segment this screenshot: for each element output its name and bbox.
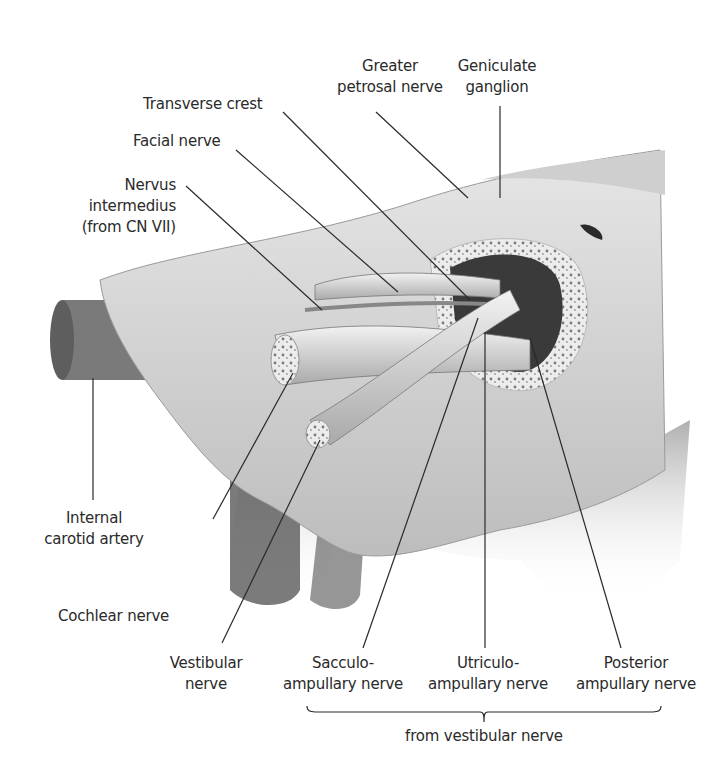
label-geniculate-ganglion: Geniculate ganglion bbox=[458, 56, 537, 98]
label-line: Utriculo- bbox=[428, 653, 548, 674]
anatomy-illustration bbox=[0, 0, 720, 764]
label-facial-nerve: Facial nerve bbox=[133, 131, 221, 152]
label-line: ampullary nerve bbox=[283, 674, 403, 695]
label-line: Sacculo- bbox=[283, 653, 403, 674]
label-line: ganglion bbox=[458, 77, 537, 98]
label-line: Internal bbox=[44, 508, 144, 529]
label-line: ampullary nerve bbox=[576, 674, 696, 695]
label-line: Nervus bbox=[124, 175, 176, 196]
label-line: Vestibular bbox=[170, 653, 243, 674]
label-posterior-ampullary-nerve: Posterior ampullary nerve bbox=[576, 653, 696, 695]
label-line: Geniculate bbox=[458, 56, 537, 77]
label-line: Greater bbox=[337, 56, 443, 77]
label-line: Posterior bbox=[576, 653, 696, 674]
label-line: nerve bbox=[170, 674, 243, 695]
label-greater-petrosal-nerve: Greater petrosal nerve bbox=[337, 56, 443, 98]
label-line: intermedius bbox=[89, 196, 176, 217]
label-line: (from CN VII) bbox=[82, 217, 176, 238]
label-line: ampullary nerve bbox=[428, 674, 548, 695]
label-group-caption: from vestibular nerve bbox=[405, 726, 563, 747]
label-transverse-crest: Transverse crest bbox=[143, 94, 263, 115]
label-line: carotid artery bbox=[44, 529, 144, 550]
label-utriculo-ampullary-nerve: Utriculo- ampullary nerve bbox=[428, 653, 548, 695]
cochlear-nerve-cut bbox=[271, 335, 299, 385]
label-internal-carotid-artery: Internal carotid artery bbox=[44, 508, 144, 550]
label-vestibular-nerve: Vestibular nerve bbox=[170, 653, 243, 695]
label-cochlear-nerve: Cochlear nerve bbox=[58, 606, 169, 627]
label-sacculo-ampullary-nerve: Sacculo- ampullary nerve bbox=[283, 653, 403, 695]
label-line: petrosal nerve bbox=[337, 77, 443, 98]
group-brace bbox=[307, 706, 661, 722]
